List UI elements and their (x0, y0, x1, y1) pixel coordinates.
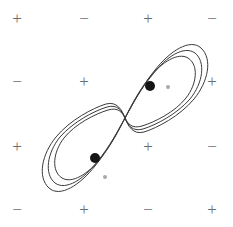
small-marker-upper (166, 85, 170, 89)
focal-dot-lower (90, 153, 100, 163)
sign-r4c4: + (202, 200, 222, 220)
sign-r3c3: + (138, 137, 158, 157)
focal-dot-upper (145, 81, 155, 91)
sign-r3c4: − (202, 137, 222, 157)
sign-r1c4: − (202, 9, 222, 29)
lemniscate-diagram: +−+−−++++−−+−+ (0, 0, 233, 227)
sign-r4c2: + (74, 200, 94, 220)
sign-r2c1: − (7, 72, 27, 92)
sign-r2c2: + (74, 72, 94, 92)
sign-r4c1: − (7, 200, 27, 220)
curve-layer (0, 0, 233, 227)
sign-r1c2: − (74, 9, 94, 29)
sign-r1c1: + (7, 9, 27, 29)
sign-r1c3: + (138, 9, 158, 29)
sign-r3c1: + (7, 137, 27, 157)
sign-r4c3: − (138, 200, 158, 220)
sign-r2c4: + (202, 72, 222, 92)
small-marker-lower (103, 175, 107, 179)
